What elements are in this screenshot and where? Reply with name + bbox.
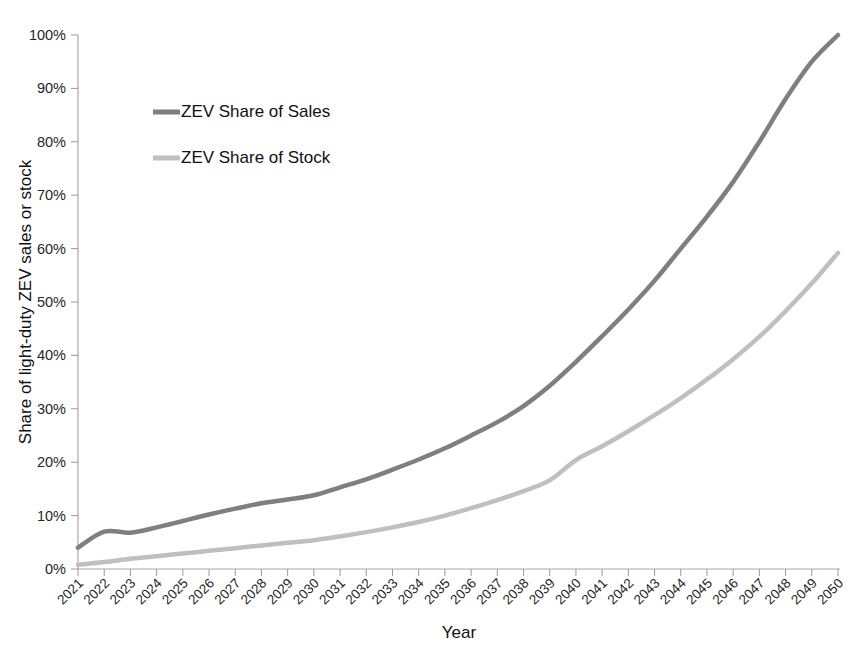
x-tick-label: 2036 — [447, 576, 479, 608]
x-axis-tick-labels: 2021202220232024202520262027202820292030… — [54, 575, 846, 607]
x-tick-label: 2031 — [316, 576, 348, 608]
x-tick-label: 2042 — [605, 576, 637, 608]
x-tick-label: 2026 — [185, 576, 217, 608]
x-axis-title: Year — [442, 623, 477, 642]
y-tick-label: 0% — [45, 561, 66, 577]
y-axis-title: Share of light-duty ZEV sales or stock — [16, 159, 35, 444]
x-tick-label: 2045 — [683, 576, 715, 608]
x-tick-label: 2033 — [369, 576, 401, 608]
x-tick-label: 2029 — [264, 576, 296, 608]
y-tick-label: 20% — [37, 454, 66, 470]
x-tick-label: 2044 — [657, 575, 689, 607]
x-tick-label: 2035 — [421, 576, 453, 608]
x-tick-label: 2025 — [159, 576, 191, 608]
y-axis-ticks — [71, 35, 78, 569]
x-tick-label: 2047 — [736, 576, 768, 608]
x-tick-label: 2041 — [578, 576, 610, 608]
x-tick-label: 2022 — [80, 576, 112, 608]
y-tick-label: 90% — [37, 80, 66, 96]
legend-label: ZEV Share of Sales — [181, 102, 330, 121]
line-chart: 0%10%20%30%40%50%60%70%80%90%100% 202120… — [0, 0, 862, 659]
x-tick-label: 2039 — [526, 576, 558, 608]
x-tick-label: 2043 — [631, 576, 663, 608]
x-tick-label: 2028 — [238, 576, 270, 608]
chart-container: 0%10%20%30%40%50%60%70%80%90%100% 202120… — [0, 0, 862, 659]
x-tick-label: 2024 — [133, 575, 165, 607]
y-tick-label: 60% — [37, 241, 66, 257]
y-tick-label: 10% — [37, 508, 66, 524]
chart-legend: ZEV Share of SalesZEV Share of Stock — [153, 102, 331, 167]
x-tick-label: 2021 — [54, 576, 86, 608]
x-axis-ticks — [78, 569, 838, 576]
x-tick-label: 2030 — [290, 576, 322, 608]
x-tick-label: 2049 — [788, 576, 820, 608]
x-tick-label: 2040 — [552, 576, 584, 608]
y-tick-label: 80% — [37, 134, 66, 150]
y-tick-label: 30% — [37, 401, 66, 417]
legend-label: ZEV Share of Stock — [181, 148, 331, 167]
x-tick-label: 2023 — [107, 576, 139, 608]
x-tick-label: 2027 — [212, 576, 244, 608]
x-tick-label: 2046 — [709, 576, 741, 608]
x-tick-label: 2038 — [500, 576, 532, 608]
x-tick-label: 2037 — [474, 576, 506, 608]
x-tick-label: 2034 — [395, 575, 427, 607]
x-tick-label: 2032 — [343, 576, 375, 608]
y-tick-label: 70% — [37, 187, 66, 203]
y-tick-label: 100% — [29, 27, 66, 43]
x-tick-label: 2048 — [762, 576, 794, 608]
y-tick-label: 40% — [37, 347, 66, 363]
x-tick-label: 2050 — [814, 576, 846, 608]
y-tick-label: 50% — [37, 294, 66, 310]
